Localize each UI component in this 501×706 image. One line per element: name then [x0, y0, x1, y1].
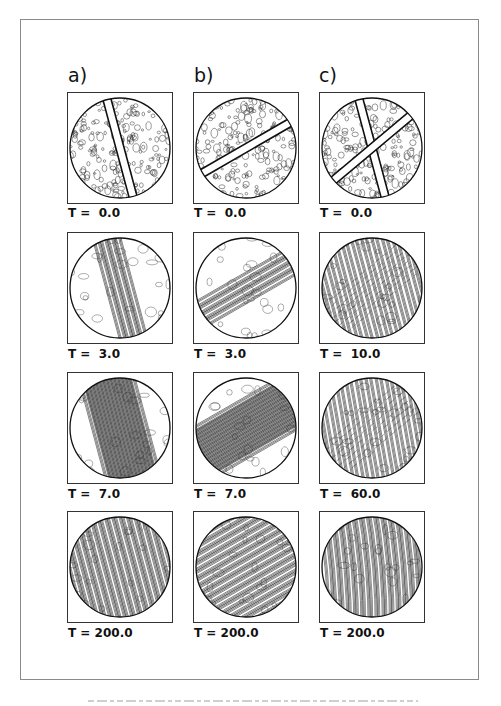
panel-b-4 — [193, 511, 299, 623]
time-label: T = 7.0 — [194, 487, 246, 501]
figure-caption — [88, 698, 418, 704]
time-label: T = 0.0 — [320, 206, 372, 220]
panel-b-1 — [193, 92, 299, 204]
caption-placeholder — [88, 698, 418, 704]
panel-b-3 — [193, 372, 299, 484]
contour-plot — [68, 233, 172, 343]
contour-plot — [194, 512, 298, 622]
column-label-c: c) — [319, 64, 337, 86]
panel-c-2 — [319, 232, 425, 344]
time-label: T = 200.0 — [320, 626, 385, 640]
column-label-a: a) — [68, 64, 87, 86]
time-label: T = 200.0 — [194, 626, 259, 640]
panel-c-1 — [319, 92, 425, 204]
time-label: T = 0.0 — [68, 206, 120, 220]
time-label: T = 0.0 — [194, 206, 246, 220]
contour-plot — [68, 373, 172, 483]
time-label: T = 60.0 — [320, 487, 380, 501]
panel-a-2 — [67, 232, 173, 344]
time-label: T = 200.0 — [68, 626, 133, 640]
panel-c-4 — [319, 511, 425, 623]
time-label: T = 10.0 — [320, 347, 380, 361]
contour-plot — [320, 93, 424, 203]
contour-plot — [320, 233, 424, 343]
time-label: T = 3.0 — [68, 347, 120, 361]
column-label-b: b) — [194, 64, 213, 86]
panel-a-1 — [67, 92, 173, 204]
contour-plot — [194, 373, 298, 483]
panel-a-4 — [67, 511, 173, 623]
contour-plot — [320, 512, 424, 622]
time-label: T = 3.0 — [194, 347, 246, 361]
time-label: T = 7.0 — [68, 487, 120, 501]
panel-a-3 — [67, 372, 173, 484]
contour-plot — [68, 93, 172, 203]
contour-plot — [194, 93, 298, 203]
panel-b-2 — [193, 232, 299, 344]
panel-c-3 — [319, 372, 425, 484]
contour-plot — [68, 512, 172, 622]
contour-plot — [320, 373, 424, 483]
contour-plot — [194, 233, 298, 343]
